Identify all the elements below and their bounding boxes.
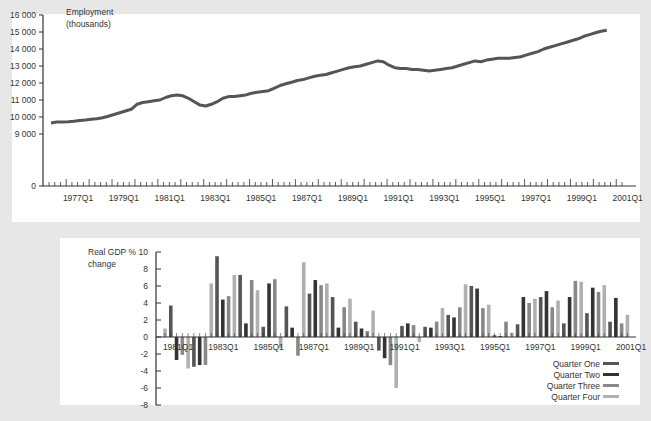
gdp-bar <box>475 289 479 337</box>
gdp-x-tick-label: 1999Q1 <box>571 342 602 352</box>
gdp-x-tick-label: 1997Q1 <box>525 342 556 352</box>
gdp-bar <box>602 285 606 337</box>
gdp-bar <box>256 290 260 337</box>
gdp-bar <box>348 299 352 337</box>
gdp-x-tick-label: 1985Q1 <box>253 342 284 352</box>
employment-y-tick-label: 0 <box>31 181 36 191</box>
gdp-bar <box>464 284 468 337</box>
gdp-bar <box>273 279 277 337</box>
gdp-y-tick-label: -2 <box>140 349 148 359</box>
gdp-bar <box>579 282 583 337</box>
gdp-y-tick-label: 2 <box>143 315 148 325</box>
gdp-bar <box>597 292 601 337</box>
legend-swatch <box>603 395 619 398</box>
gdp-bar <box>209 283 213 337</box>
gdp-x-tick-label: 1989Q1 <box>344 342 375 352</box>
gdp-bar <box>313 280 317 337</box>
gdp-ylabel-line2: change <box>88 259 116 269</box>
gdp-y-tick-label: 8 <box>143 264 148 274</box>
chart-canvas: Employment (thousands) 09 00010 00011 00… <box>0 0 651 421</box>
gdp-bar <box>545 291 549 337</box>
gdp-bar <box>267 283 271 337</box>
employment-y-tick-label: 9 000 <box>15 129 37 139</box>
gdp-bar <box>458 307 462 337</box>
legend-label: Quarter Four <box>551 392 600 402</box>
gdp-bar <box>319 285 323 337</box>
gdp-bar <box>441 308 445 337</box>
gdp-bar <box>568 297 572 337</box>
employment-x-tick-label: 1987Q1 <box>292 193 323 203</box>
gdp-bar <box>308 294 312 337</box>
gdp-bar <box>215 256 219 337</box>
gdp-bar-chart: Real GDP % change -8-6-4-20246810 1981Q1… <box>88 247 646 410</box>
employment-x-tick-label: 2001Q1 <box>612 193 643 203</box>
employment-y-tick-label: 11 000 <box>11 95 37 105</box>
gdp-bar <box>574 281 578 337</box>
employment-x-tick-label: 1989Q1 <box>338 193 369 203</box>
employment-x-tick-label: 1985Q1 <box>246 193 277 203</box>
gdp-x-tick-label: 1991Q1 <box>389 342 420 352</box>
gdp-bar <box>539 297 543 337</box>
legend-label: Quarter Two <box>553 370 600 380</box>
legend: Quarter OneQuarter TwoQuarter ThreeQuart… <box>547 359 619 402</box>
gdp-y-tick-label: -6 <box>140 383 148 393</box>
gdp-y-tick-label: 0 <box>143 332 148 342</box>
employment-x-tick-label: 1997Q1 <box>521 193 552 203</box>
employment-line-chart: Employment (thousands) 09 00010 00011 00… <box>10 7 643 203</box>
gdp-bar <box>331 297 335 337</box>
gdp-x-tick-label: 1995Q1 <box>480 342 511 352</box>
gdp-bar <box>233 275 237 337</box>
employment-x-tick-label: 1993Q1 <box>429 193 460 203</box>
gdp-x-tick-label: 1987Q1 <box>299 342 330 352</box>
gdp-bar <box>204 337 208 365</box>
gdp-y-tick-label: -8 <box>140 400 148 410</box>
gdp-bar <box>227 296 231 337</box>
employment-y-tick-label: 12 000 <box>10 78 36 88</box>
employment-y-tick-label: 14 000 <box>10 44 36 54</box>
employment-x-tick-label: 1991Q1 <box>383 193 414 203</box>
gdp-bar <box>556 300 560 337</box>
employment-y-axis: 09 00010 00011 00012 00013 00014 00015 0… <box>10 10 43 191</box>
gdp-bar <box>533 299 537 337</box>
gdp-y-axis: -8-6-4-20246810 <box>139 247 161 410</box>
gdp-y-tick-label: 4 <box>143 298 148 308</box>
employment-y-tick-label: 16 000 <box>10 10 36 20</box>
gdp-bar <box>522 297 526 337</box>
gdp-bar <box>481 308 485 337</box>
gdp-bar <box>470 286 474 337</box>
gdp-x-tick-label: 1983Q1 <box>208 342 239 352</box>
gdp-bar <box>487 305 491 337</box>
legend-swatch <box>603 362 619 365</box>
legend-swatch <box>603 384 619 387</box>
gdp-bar <box>342 307 346 337</box>
employment-x-axis: 1977Q11979Q11981Q11983Q11985Q11987Q11989… <box>43 179 643 203</box>
gdp-y-tick-label: 10 <box>139 247 149 257</box>
gdp-bar <box>325 283 329 337</box>
gdp-x-tick-label: 2001Q1 <box>616 342 647 352</box>
gdp-bar <box>238 275 242 337</box>
employment-x-tick-label: 1979Q1 <box>109 193 140 203</box>
employment-line <box>51 30 607 123</box>
employment-x-tick-label: 1977Q1 <box>63 193 94 203</box>
gdp-bar <box>614 298 618 337</box>
gdp-y-tick-label: -4 <box>140 366 148 376</box>
employment-y-tick-label: 13 000 <box>10 61 36 71</box>
gdp-bar <box>285 306 289 337</box>
gdp-bar <box>527 303 531 337</box>
gdp-bar <box>591 288 595 337</box>
legend-label: Quarter One <box>553 359 601 369</box>
gdp-bar <box>383 337 387 358</box>
employment-x-tick-label: 1999Q1 <box>567 193 598 203</box>
employment-y-tick-label: 10 000 <box>10 112 36 122</box>
employment-x-tick-label: 1983Q1 <box>200 193 231 203</box>
employment-ylabel-line1: Employment <box>66 7 114 17</box>
employment-ylabel-line2: (thousands) <box>66 19 111 29</box>
gdp-bar <box>302 262 306 337</box>
legend-swatch <box>603 373 619 376</box>
gdp-bar <box>550 307 554 337</box>
employment-x-tick-label: 1981Q1 <box>154 193 185 203</box>
gdp-bar <box>169 306 173 337</box>
gdp-bar <box>250 280 254 337</box>
employment-x-tick-label: 1995Q1 <box>475 193 506 203</box>
gdp-bar <box>377 337 381 351</box>
